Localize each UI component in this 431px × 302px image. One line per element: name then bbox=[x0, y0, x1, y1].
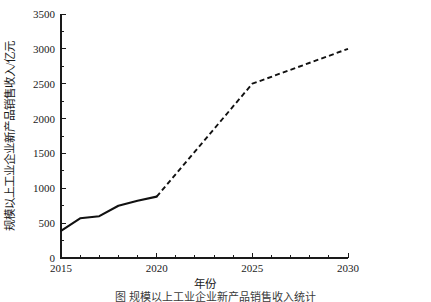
y-tick-label: 500 bbox=[39, 217, 56, 229]
y-axis-title: 规模以上工业企业新产品销售收入/亿元 bbox=[3, 40, 16, 231]
x-tick-label: 2025 bbox=[241, 262, 264, 274]
y-tick-label: 3500 bbox=[33, 8, 56, 20]
series-forecast-line bbox=[157, 49, 348, 197]
x-axis-title: 年份 bbox=[194, 277, 217, 290]
y-tick-label: 2000 bbox=[33, 113, 56, 125]
axis-frame bbox=[61, 14, 348, 258]
x-tick-label: 2015 bbox=[50, 262, 73, 274]
y-tick-label: 3000 bbox=[33, 43, 56, 55]
x-tick-label: 2020 bbox=[146, 262, 169, 274]
x-axis-tick-labels: 2015202020252030 bbox=[50, 262, 360, 274]
x-tick-label: 2030 bbox=[337, 262, 360, 274]
axis-tick-marks bbox=[61, 14, 348, 258]
series-historical-line bbox=[61, 197, 157, 231]
y-tick-label: 2500 bbox=[33, 78, 56, 90]
y-tick-label: 1000 bbox=[33, 182, 56, 194]
y-axis-tick-labels: 0500100015002000250030003500 bbox=[33, 8, 56, 264]
figure-caption: 图 规模以上工业企业新产品销售收入统计 bbox=[0, 290, 431, 302]
y-tick-label: 1500 bbox=[33, 147, 56, 159]
